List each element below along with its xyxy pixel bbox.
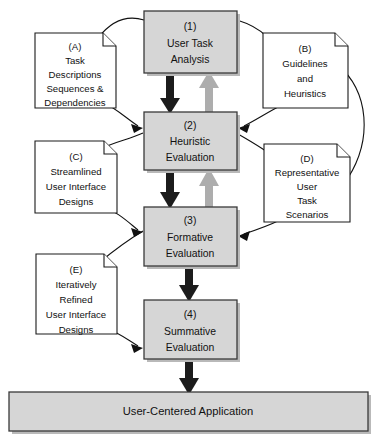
note-e-line-2: Refined: [59, 294, 92, 305]
connector-noteD-to-p3: [238, 220, 280, 241]
note-a-tag: (A): [69, 41, 82, 52]
process-1-tag: (1): [184, 21, 197, 32]
flow-p2-to-p3-down: [160, 170, 180, 209]
process-flow-diagram: (A) Task Descriptions Sequences & Depend…: [0, 0, 379, 444]
process-box-3[interactable]: (3) Formative Evaluation: [144, 207, 240, 269]
note-d-line-2: User: [297, 181, 318, 192]
process-4-line-2: Evaluation: [166, 342, 215, 353]
flow-p2-to-p1-up: [199, 71, 219, 114]
note-a[interactable]: (A) Task Descriptions Sequences & Depend…: [35, 33, 116, 108]
process-2-tag: (2): [184, 120, 197, 131]
connector-p1-to-noteB: [237, 20, 266, 36]
process-1-line-2: Analysis: [171, 54, 210, 65]
flow-p3-to-p4-down: [179, 266, 199, 302]
note-a-line-1: Task: [65, 55, 85, 66]
process-box-1[interactable]: (1) User Task Analysis: [144, 11, 240, 76]
process-4-line-1: Summative: [164, 326, 216, 337]
note-c[interactable]: (C) Streamlined User Interface Designs: [35, 141, 117, 213]
flow-p4-to-outcome-down: [179, 359, 199, 395]
process-2-line-2: Evaluation: [166, 152, 215, 163]
note-d[interactable]: (D) Representative User Task Scenarios: [264, 144, 350, 222]
note-b[interactable]: (B) Guidelines and Heuristics: [263, 33, 348, 108]
outcome-bar-label: User-Centered Application: [123, 405, 254, 417]
connector-noteB-to-p2: [238, 106, 280, 133]
note-d-line-4: Scenarios: [286, 209, 329, 220]
note-e-tag: (E): [70, 264, 83, 275]
process-box-2[interactable]: (2) Heuristic Evaluation: [144, 112, 240, 173]
diagram-canvas: (A) Task Descriptions Sequences & Depend…: [0, 0, 379, 444]
note-e-line-3: User Interface: [46, 309, 106, 320]
process-2-line-1: Heuristic: [170, 136, 210, 147]
note-a-line-3: Sequences &: [46, 83, 104, 94]
note-a-line-4: Dependencies: [44, 97, 106, 108]
note-c-line-3: Designs: [59, 196, 94, 207]
outcome-bar[interactable]: User-Centered Application: [9, 392, 371, 434]
note-d-line-3: Task: [297, 195, 317, 206]
note-d-tag: (D): [300, 153, 313, 164]
process-3-line-2: Evaluation: [166, 248, 215, 259]
processes-layer: (1) User Task Analysis (2) Heuristic Eva…: [144, 11, 240, 362]
note-d-line-1: Representative: [275, 167, 340, 178]
note-c-line-1: Streamlined: [50, 166, 101, 177]
flow-p3-to-p2-up: [199, 168, 219, 208]
process-4-tag: (4): [184, 309, 197, 320]
note-b-line-2: and: [297, 73, 313, 84]
process-box-4[interactable]: (4) Summative Evaluation: [144, 300, 240, 362]
note-b-line-3: Heuristics: [284, 88, 326, 99]
note-b-line-1: Guidelines: [282, 58, 328, 69]
note-e[interactable]: (E) Iteratively Refined User Interface D…: [36, 254, 117, 335]
flow-p1-to-p2-down: [160, 73, 180, 114]
note-e-line-1: Iteratively: [55, 279, 96, 290]
note-e-line-4: Designs: [59, 324, 94, 335]
note-a-line-2: Descriptions: [49, 69, 102, 80]
note-c-line-2: User Interface: [46, 181, 106, 192]
process-1-line-1: User Task: [167, 38, 214, 49]
note-c-tag: (C): [69, 151, 82, 162]
note-b-tag: (B): [299, 43, 312, 54]
process-3-line-1: Formative: [167, 232, 213, 243]
process-3-tag: (3): [184, 215, 197, 226]
